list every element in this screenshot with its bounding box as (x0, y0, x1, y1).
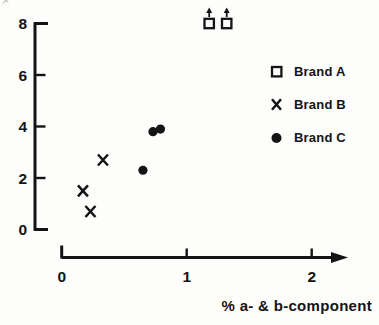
x-cross-marker-icon (269, 97, 284, 112)
point-x-cross (78, 185, 88, 196)
legend-item-brand-a: Brand A (269, 63, 346, 80)
off-scale-up-arrow-icon (224, 8, 230, 14)
svg-text:0: 0 (57, 268, 66, 285)
legend-label-brand-c: Brand C (294, 130, 346, 145)
svg-text:% a- & b-component: % a- & b-component (222, 297, 372, 314)
point-open-square (205, 19, 214, 28)
svg-text:4: 4 (18, 118, 27, 135)
legend: Brand A Brand B Brand C (269, 63, 346, 146)
chart-canvas: 02468012% a- & b-component (0, 0, 379, 325)
svg-text:2: 2 (307, 268, 316, 285)
svg-text:0: 0 (18, 221, 27, 238)
filled-circle-marker-icon (269, 130, 284, 145)
legend-item-brand-b: Brand B (269, 96, 346, 113)
svg-text:6: 6 (18, 67, 27, 84)
point-filled-circle (138, 166, 147, 175)
point-x-cross (98, 154, 108, 165)
point-filled-circle (156, 124, 165, 133)
scatter-plot-figure: 02468012% a- & b-component Brand A Brand… (0, 0, 379, 325)
svg-text:1: 1 (182, 268, 191, 285)
point-open-square (222, 19, 231, 28)
point-x-cross (85, 206, 95, 217)
svg-text:2: 2 (18, 170, 27, 187)
svg-text:8: 8 (18, 15, 27, 32)
open-square-marker-icon (269, 64, 284, 79)
legend-item-brand-c: Brand C (269, 129, 346, 146)
off-scale-up-arrow-icon (206, 8, 212, 14)
legend-label-brand-b: Brand B (294, 97, 346, 112)
legend-label-brand-a: Brand A (294, 64, 345, 79)
